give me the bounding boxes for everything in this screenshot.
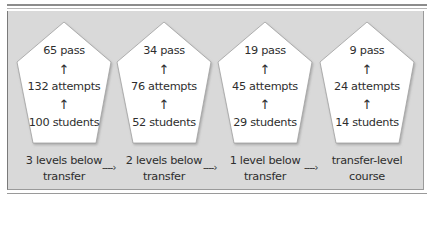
stage-label-line1: 1 level below: [215, 153, 315, 169]
up-arrow-icon: ↑: [17, 98, 111, 111]
attempts-count: 45 attempts: [218, 80, 312, 93]
stage-label-line1: transfer-level: [317, 153, 417, 169]
stage-label-2: 2 levels below transfer: [114, 153, 214, 185]
pass-count: 34 pass: [117, 44, 211, 57]
up-arrow-icon: ↑: [320, 98, 414, 111]
stage-label-line2: transfer: [14, 169, 114, 185]
up-arrow-icon: ↑: [320, 63, 414, 76]
up-arrow-icon: ↑: [117, 98, 211, 111]
students-count: 52 students: [117, 116, 211, 129]
dashed-arrow-icon: ----›: [304, 162, 317, 173]
stage-label-4: transfer-level course: [317, 153, 417, 185]
attempts-count: 24 attempts: [320, 80, 414, 93]
up-arrow-icon: ↑: [218, 98, 312, 111]
stage-label-line2: course: [317, 169, 417, 185]
students-count: 29 students: [218, 116, 312, 129]
stage-label-line1: 2 levels below: [114, 153, 214, 169]
stage-label-line2: transfer: [215, 169, 315, 185]
students-count: 14 students: [320, 116, 414, 129]
attempts-count: 76 attempts: [117, 80, 211, 93]
pass-count: 9 pass: [320, 44, 414, 57]
stage-label-line2: transfer: [114, 169, 214, 185]
stage-label-line1: 3 levels below: [14, 153, 114, 169]
attempts-count: 132 attempts: [17, 80, 111, 93]
students-count: 100 students: [17, 116, 111, 129]
up-arrow-icon: ↑: [218, 63, 312, 76]
up-arrow-icon: ↑: [17, 63, 111, 76]
stage-label-3: 1 level below transfer: [215, 153, 315, 185]
pass-count: 19 pass: [218, 44, 312, 57]
up-arrow-icon: ↑: [117, 63, 211, 76]
pass-count: 65 pass: [17, 44, 111, 57]
stage-label-1: 3 levels below transfer: [14, 153, 114, 185]
